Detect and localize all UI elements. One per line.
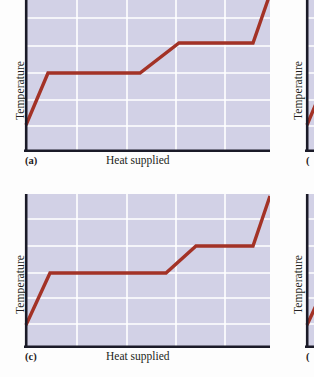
plot-area-c: [24, 194, 270, 350]
panel-d-cropped: Temperature (: [282, 188, 314, 377]
panel-b-cropped: Temperature (: [282, 0, 314, 180]
figure-page: Temperature: [0, 0, 314, 377]
plot-background: [26, 194, 270, 348]
panel-tag-b: (: [306, 155, 310, 166]
plot-area-d: [305, 194, 314, 350]
panel-tag-d: (: [306, 351, 310, 362]
chart-b: [305, 0, 314, 154]
y-axis-label: Temperature: [292, 255, 304, 314]
plot-background: [26, 0, 270, 152]
panel-tag-c: (c): [25, 351, 37, 362]
panel-a: Temperature: [0, 0, 270, 180]
chart-d: [305, 194, 314, 350]
chart-c: [24, 194, 270, 350]
panel-tag-a: (a): [25, 155, 37, 166]
x-axis-label: Heat supplied: [106, 154, 170, 166]
plot-area-a: [24, 0, 270, 154]
chart-a: [24, 0, 270, 154]
plot-area-b: [305, 0, 314, 154]
y-axis-label: Temperature: [292, 61, 304, 120]
x-axis-label: Heat supplied: [106, 350, 170, 362]
panel-c: Temperature: [0, 188, 270, 377]
